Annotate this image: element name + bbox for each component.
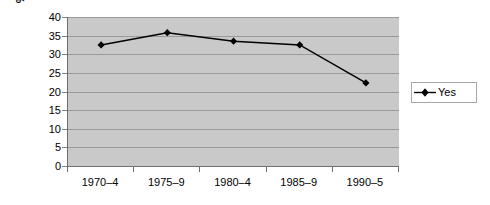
data-point-marker bbox=[164, 29, 171, 36]
x-axis-tick-mark bbox=[266, 167, 267, 172]
x-axis-tick-mark bbox=[199, 167, 200, 172]
y-axis-tick-label: 15 bbox=[33, 103, 61, 117]
legend: Yes bbox=[411, 82, 477, 103]
legend-line-marker-icon bbox=[412, 83, 438, 102]
x-axis-tick-mark bbox=[398, 167, 399, 172]
line-chart-figure: % observations 4035302520151050 1970–419… bbox=[0, 0, 490, 205]
y-axis-tick-label: 20 bbox=[33, 85, 61, 99]
x-axis-tick-mark bbox=[332, 167, 333, 172]
data-point-marker bbox=[230, 38, 237, 45]
y-axis-tick-label: 25 bbox=[33, 66, 61, 80]
y-axis-tick-label: 5 bbox=[33, 140, 61, 154]
x-axis-tick-mark bbox=[67, 167, 68, 172]
x-axis-tick-label: 1990–5 bbox=[325, 174, 405, 190]
y-axis-tick-label: 40 bbox=[33, 10, 61, 24]
y-axis-tick-label: 10 bbox=[33, 122, 61, 136]
y-axis-tick-labels: 4035302520151050 bbox=[33, 10, 61, 173]
data-point-marker bbox=[362, 79, 369, 86]
plot-area bbox=[67, 17, 399, 167]
y-axis-tick-label: 0 bbox=[33, 159, 61, 173]
data-point-marker bbox=[296, 41, 303, 48]
y-axis-tick-label: 35 bbox=[33, 29, 61, 43]
x-axis-tick-mark bbox=[133, 167, 134, 172]
series-layer bbox=[68, 17, 399, 166]
y-axis-tick-label: 30 bbox=[33, 47, 61, 61]
legend-entry-yes: Yes bbox=[412, 83, 476, 102]
y-axis-title: % observations bbox=[10, 0, 30, 37]
data-point-marker bbox=[98, 41, 105, 48]
legend-label-yes: Yes bbox=[438, 83, 456, 102]
